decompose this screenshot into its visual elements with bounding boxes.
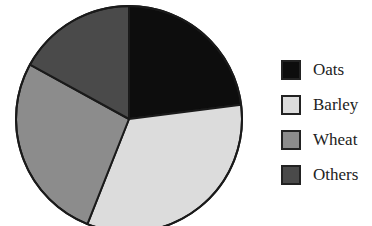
legend-item-oats: Oats bbox=[281, 52, 372, 87]
legend-label-barley: Barley bbox=[313, 95, 358, 115]
legend: Oats Barley Wheat Others bbox=[281, 52, 372, 192]
legend-item-others: Others bbox=[281, 157, 372, 192]
legend-swatch-others bbox=[281, 165, 301, 185]
legend-swatch-wheat bbox=[281, 130, 301, 150]
legend-swatch-oats bbox=[281, 60, 301, 80]
legend-label-others: Others bbox=[313, 165, 358, 185]
legend-label-wheat: Wheat bbox=[313, 130, 357, 150]
legend-item-wheat: Wheat bbox=[281, 122, 372, 157]
legend-item-barley: Barley bbox=[281, 87, 372, 122]
legend-swatch-barley bbox=[281, 95, 301, 115]
pie-slice-oats bbox=[129, 6, 241, 119]
legend-label-oats: Oats bbox=[313, 60, 344, 80]
